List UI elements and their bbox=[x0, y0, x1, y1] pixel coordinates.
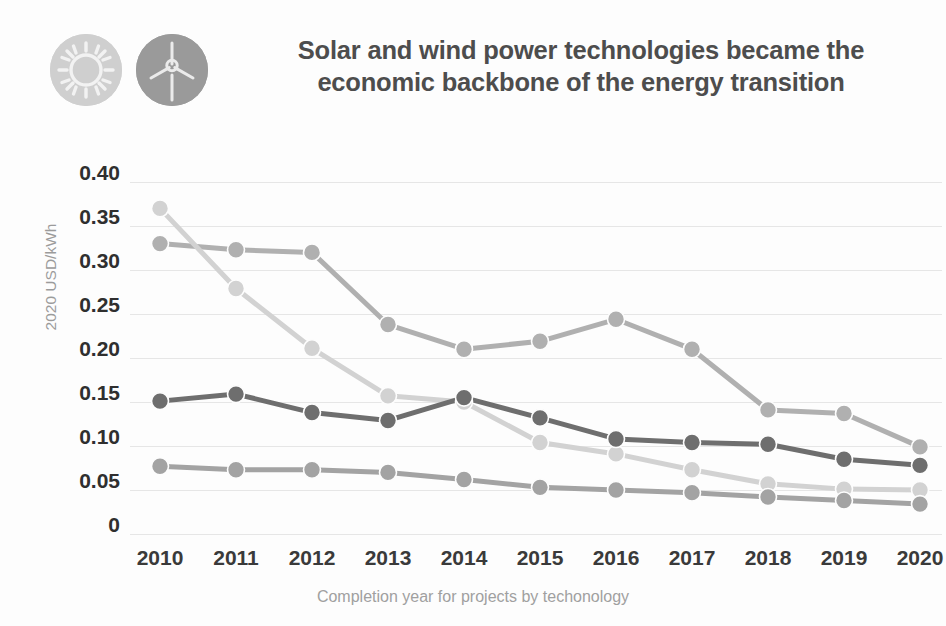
series-line bbox=[160, 208, 920, 490]
plot-area bbox=[0, 0, 946, 626]
data-point bbox=[684, 484, 701, 501]
gridline bbox=[130, 534, 942, 535]
series-line bbox=[160, 244, 920, 447]
data-point bbox=[760, 489, 777, 506]
data-point bbox=[912, 457, 929, 474]
data-point bbox=[228, 461, 245, 478]
y-tick-label: 0.10 bbox=[54, 425, 126, 449]
data-point bbox=[760, 401, 777, 418]
series-line bbox=[160, 466, 920, 504]
data-point bbox=[836, 405, 853, 422]
y-tick-label: 0.40 bbox=[54, 161, 126, 185]
data-point bbox=[532, 479, 549, 496]
line-chart: 2020 USD/kWh 00.050.100.150.200.250.300.… bbox=[0, 0, 946, 626]
x-tick-label: 2020 bbox=[875, 546, 946, 570]
series-line bbox=[160, 394, 920, 465]
data-point bbox=[304, 340, 321, 357]
data-point bbox=[912, 496, 929, 513]
y-tick-label: 0.30 bbox=[54, 249, 126, 273]
data-point bbox=[608, 430, 625, 447]
gridline bbox=[130, 270, 942, 271]
gridline bbox=[130, 182, 942, 183]
gridline bbox=[130, 402, 942, 403]
data-point bbox=[304, 244, 321, 261]
data-point bbox=[304, 404, 321, 421]
data-point bbox=[228, 241, 245, 258]
data-point bbox=[456, 341, 473, 358]
data-point bbox=[228, 386, 245, 403]
data-point bbox=[456, 471, 473, 488]
data-point bbox=[608, 445, 625, 462]
data-point bbox=[684, 434, 701, 451]
data-point bbox=[836, 492, 853, 509]
data-point bbox=[152, 458, 169, 475]
data-point bbox=[380, 316, 397, 333]
data-point bbox=[380, 412, 397, 429]
y-tick-label: 0.05 bbox=[54, 469, 126, 493]
data-point bbox=[228, 280, 245, 297]
data-point bbox=[152, 200, 169, 217]
x-axis-label: Completion year for projects by techonol… bbox=[0, 588, 946, 606]
y-tick-label: 0 bbox=[54, 513, 126, 537]
y-tick-label: 0.25 bbox=[54, 293, 126, 317]
data-point bbox=[684, 341, 701, 358]
y-axis-ticks: 00.050.100.150.200.250.300.350.40 bbox=[48, 0, 126, 626]
data-point bbox=[532, 434, 549, 451]
gridline bbox=[130, 446, 942, 447]
data-point bbox=[456, 389, 473, 406]
gridline bbox=[130, 226, 942, 227]
data-point bbox=[532, 409, 549, 426]
data-point bbox=[152, 235, 169, 252]
data-point bbox=[532, 333, 549, 350]
y-tick-label: 0.20 bbox=[54, 337, 126, 361]
data-point bbox=[304, 461, 321, 478]
data-point bbox=[836, 451, 853, 468]
data-point bbox=[684, 461, 701, 478]
gridline bbox=[130, 314, 942, 315]
gridline bbox=[130, 358, 942, 359]
gridline bbox=[130, 490, 942, 491]
y-tick-label: 0.15 bbox=[54, 381, 126, 405]
y-tick-label: 0.35 bbox=[54, 205, 126, 229]
data-point bbox=[760, 436, 777, 453]
data-point bbox=[380, 464, 397, 481]
